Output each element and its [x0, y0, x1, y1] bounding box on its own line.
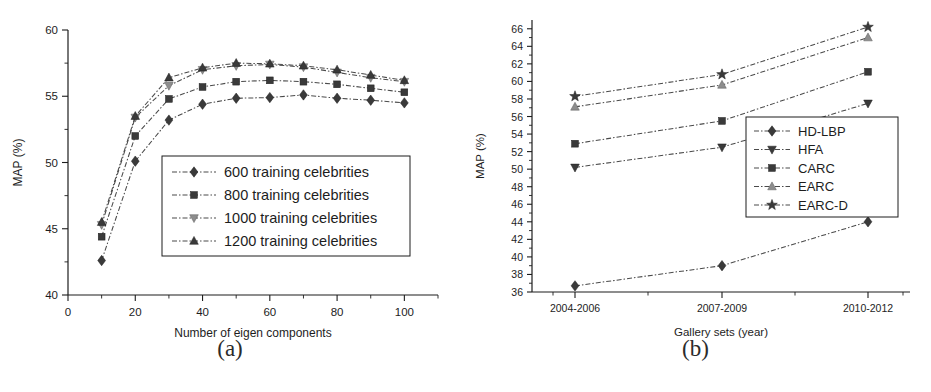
legend-label-4: EARC-D	[798, 198, 848, 213]
y-tick-label: 40	[45, 289, 58, 301]
series-1-marker-3	[199, 84, 206, 91]
legend-label-2: CARC	[798, 161, 835, 176]
y-tick-label: 38	[511, 268, 523, 280]
series-4-marker-2	[863, 21, 874, 31]
series-1-marker-5	[266, 77, 273, 84]
y-tick-label: 64	[511, 40, 523, 52]
chart-b-plot: 363840424446485052545658606264662004-200…	[460, 0, 931, 340]
series-0-marker-8	[367, 95, 375, 105]
series-2-marker-2	[865, 68, 872, 75]
series-1-marker-7	[334, 81, 341, 88]
legend-label-2: 1000 training celebrities	[224, 210, 377, 226]
x-tick-label: 60	[263, 306, 276, 318]
y-tick-label: 60	[511, 75, 523, 87]
panel-b-caption: (b)	[460, 336, 931, 362]
y-tick-label: 56	[511, 111, 523, 123]
y-tick-label: 42	[511, 233, 523, 245]
x-tick-label: 20	[129, 306, 142, 318]
series-1-marker-0	[98, 233, 105, 240]
legend-label-3: 1200 training celebrities	[224, 233, 377, 249]
x-tick-label: 2004-2006	[550, 302, 600, 314]
legend-label-1: 800 training celebrities	[224, 187, 369, 203]
y-tick-label: 36	[511, 286, 523, 298]
series-0-marker-9	[400, 98, 408, 108]
x-tick-label: 100	[395, 306, 414, 318]
series-1-marker-2	[166, 96, 173, 103]
series-2-marker-0	[572, 140, 579, 147]
series-0-marker-5	[266, 92, 274, 102]
legend-label-0: 600 training celebrities	[224, 164, 369, 180]
y-tick-label: 58	[511, 93, 523, 105]
panel-a-caption: (a)	[0, 336, 460, 362]
series-line-0	[575, 222, 868, 286]
series-0-marker-3	[199, 99, 207, 109]
series-0-marker-1	[718, 260, 726, 270]
figure-container: 4045505560020406080100Number of eigen co…	[0, 0, 931, 392]
legend-label-3: EARC	[798, 179, 834, 194]
y-tick-label: 52	[511, 146, 523, 158]
series-1-marker-1	[132, 133, 139, 140]
series-0-marker-0	[98, 255, 106, 265]
series-2-marker-1	[719, 118, 726, 125]
series-0-marker-7	[333, 93, 341, 103]
legend-2-marker-0	[769, 165, 776, 172]
x-tick-label: 0	[65, 306, 71, 318]
y-tick-label: 50	[45, 157, 58, 169]
series-4-marker-1	[717, 69, 728, 79]
x-tick-label: 2007-2009	[697, 302, 747, 314]
series-0-marker-2	[165, 115, 173, 125]
y-tick-label: 60	[45, 24, 58, 36]
y-tick-label: 50	[511, 163, 523, 175]
series-1-marker-6	[300, 78, 307, 85]
y-tick-label: 45	[45, 223, 58, 235]
legend-label-0: HD-LBP	[798, 124, 846, 139]
chart-panel-a: 4045505560020406080100Number of eigen co…	[0, 0, 460, 392]
series-1-marker-9	[401, 89, 408, 96]
x-tick-label: 2010-2012	[843, 302, 893, 314]
series-1-marker-4	[233, 78, 240, 85]
x-tick-label: 80	[331, 306, 344, 318]
y-tick-label: 44	[511, 216, 523, 228]
series-4-marker-0	[570, 91, 581, 101]
legend-1-marker-0	[191, 192, 198, 199]
y-axis-title: MAP (%)	[11, 139, 25, 187]
series-0-marker-4	[232, 93, 240, 103]
chart-a-plot: 4045505560020406080100Number of eigen co…	[0, 0, 460, 340]
y-tick-label: 62	[511, 58, 523, 70]
series-1-marker-1	[718, 144, 727, 152]
series-3-marker-2	[864, 33, 873, 41]
series-0-marker-0	[571, 281, 579, 291]
y-tick-label: 48	[511, 181, 523, 193]
series-0-marker-6	[300, 90, 308, 100]
series-1-marker-0	[571, 164, 580, 172]
y-tick-label: 46	[511, 198, 523, 210]
y-tick-label: 55	[45, 90, 58, 102]
chart-panel-b: 363840424446485052545658606264662004-200…	[460, 0, 931, 392]
x-tick-label: 40	[196, 306, 209, 318]
y-tick-label: 66	[511, 23, 523, 35]
series-1-marker-8	[367, 85, 374, 92]
y-tick-label: 40	[511, 251, 523, 263]
y-axis-title: MAP (%)	[474, 133, 486, 179]
series-0-marker-2	[864, 217, 872, 227]
y-tick-label: 54	[511, 128, 523, 140]
legend-label-1: HFA	[798, 142, 824, 157]
